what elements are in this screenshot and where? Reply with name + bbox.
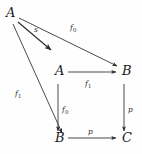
edge-label-f0-diagonal-sub: 0 xyxy=(73,27,76,33)
edge-label-p-bottom: p xyxy=(88,128,93,136)
edge-label-f1-diagonal: f1 xyxy=(15,90,21,98)
edge-label-f0-left-sub: 0 xyxy=(65,109,68,115)
edge-label-s: s xyxy=(34,26,38,34)
node-a-middle: A xyxy=(55,64,64,77)
edge-label-f0-left: f0 xyxy=(62,106,68,114)
edge-label-p-bottom-text: p xyxy=(88,127,93,136)
edge-label-f1-top-sub: 1 xyxy=(88,83,91,89)
edge-label-p-right-text: p xyxy=(128,105,133,114)
edge-label-f1-top: f1 xyxy=(85,80,91,88)
edge-label-f0-diagonal: f0 xyxy=(70,24,76,32)
edge-label-s-text: s xyxy=(34,25,38,34)
edge-label-p-right: p xyxy=(128,106,133,114)
node-b-middle-right: B xyxy=(122,64,132,77)
edge-label-f1-diagonal-sub: 1 xyxy=(18,93,21,99)
node-b-bottom-left: B xyxy=(55,131,65,144)
arrow-f1-diagonal xyxy=(13,24,62,133)
node-a-top-left: A xyxy=(6,6,15,19)
node-c-bottom-right: C xyxy=(122,131,132,144)
commutative-diagram: A A B B C s f0 f1 f1 f0 p p xyxy=(0,0,142,154)
